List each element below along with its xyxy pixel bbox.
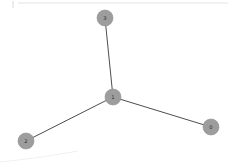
graph-edge-1-3 bbox=[105, 18, 113, 97]
graph-node-circle-2[interactable] bbox=[18, 133, 34, 149]
graph-canvas: 3120 bbox=[0, 0, 232, 168]
graph-node-circle-0[interactable] bbox=[203, 119, 219, 135]
frame-decoration bbox=[0, 1, 228, 162]
node-layer: 3120 bbox=[18, 10, 219, 149]
graph-node-0[interactable]: 0 bbox=[203, 119, 219, 135]
graph-node-2[interactable]: 2 bbox=[18, 133, 34, 149]
graph-node-3[interactable]: 3 bbox=[97, 10, 113, 26]
edge-layer bbox=[26, 18, 211, 141]
graph-node-1[interactable]: 1 bbox=[105, 89, 121, 105]
graph-visualization: 3120 bbox=[0, 0, 232, 168]
frame-bottom-arc bbox=[0, 151, 78, 162]
graph-node-circle-3[interactable] bbox=[97, 10, 113, 26]
graph-edge-1-0 bbox=[113, 97, 211, 127]
graph-node-circle-1[interactable] bbox=[105, 89, 121, 105]
graph-edge-1-2 bbox=[26, 97, 113, 141]
